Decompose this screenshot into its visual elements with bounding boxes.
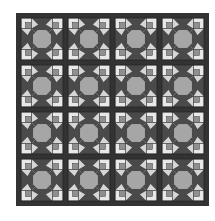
quilt-block [21, 112, 63, 154]
quilt-block [162, 65, 204, 107]
quilt-block [162, 159, 204, 201]
quilt-image [16, 13, 209, 206]
quilt-block [21, 159, 63, 201]
quilt-block [162, 18, 204, 60]
quilt-block [68, 159, 110, 201]
quilt-block [68, 18, 110, 60]
quilt-block [115, 159, 157, 201]
quilt-block [68, 112, 110, 154]
quilt-block [115, 18, 157, 60]
quilt-block [162, 112, 204, 154]
quilt-block [21, 65, 63, 107]
quilt-block [68, 65, 110, 107]
quilt-block [115, 112, 157, 154]
quilt-pattern [16, 13, 209, 206]
quilt-block [115, 65, 157, 107]
quilt-block [21, 18, 63, 60]
